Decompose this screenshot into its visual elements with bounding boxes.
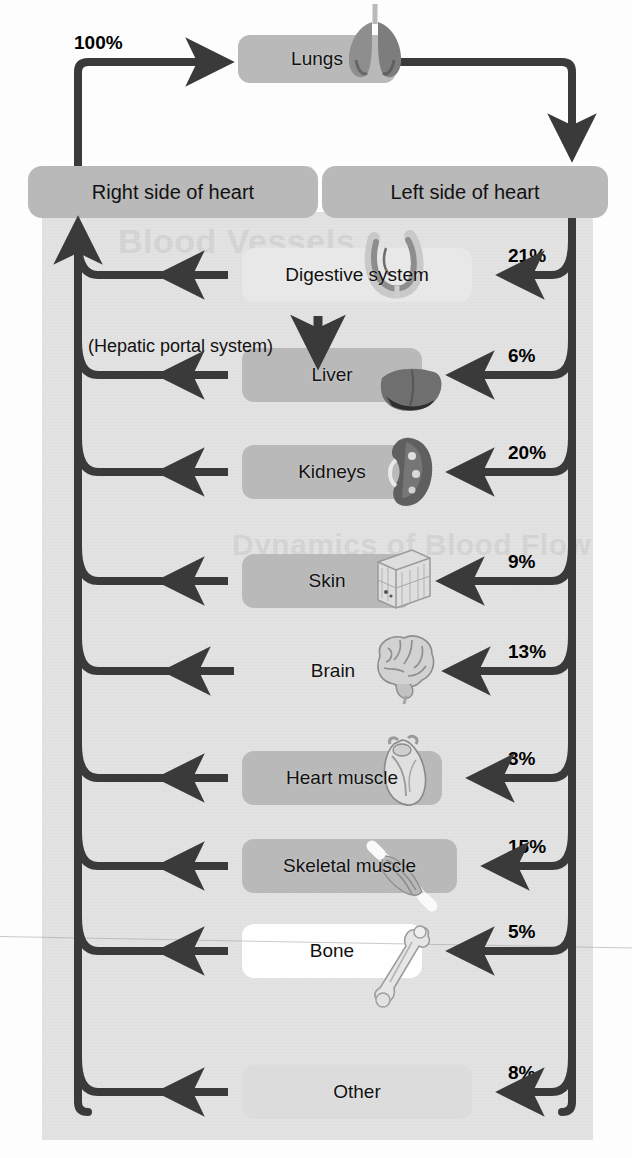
bone-icon: [372, 920, 434, 1016]
organ-label: Skin: [309, 570, 346, 592]
organ-label: Other: [333, 1081, 381, 1103]
percent-label-brain: 13%: [508, 641, 546, 663]
percent-label-heart-muscle: 3%: [508, 748, 535, 770]
organ-label: Bone: [310, 940, 354, 962]
node-left-heart[interactable]: Left side of heart: [322, 166, 608, 218]
organ-label: Liver: [311, 364, 352, 386]
liver-icon: [378, 364, 446, 420]
kidney-icon: [376, 434, 438, 512]
node-digestive-system[interactable]: Digestive system: [242, 248, 472, 302]
percent-label-kidneys: 20%: [508, 442, 546, 464]
brain-icon: [362, 630, 440, 706]
percent-label-skin: 9%: [508, 551, 535, 573]
percent-label-liver: 6%: [508, 345, 535, 367]
node-lungs-label: Lungs: [291, 48, 343, 70]
percent-label-skeletal-muscle: 15%: [508, 836, 546, 858]
hepatic-portal-note: (Hepatic portal system): [88, 336, 273, 357]
organ-label: Skeletal muscle: [283, 855, 416, 877]
percent-label-digestive-system: 21%: [508, 245, 546, 267]
organ-label: Heart muscle: [286, 767, 398, 789]
node-left-heart-label: Left side of heart: [391, 181, 540, 204]
lungs-icon: [336, 2, 414, 84]
organ-label: Kidneys: [298, 461, 366, 483]
diagram-canvas: Dynamics of Blood Flow Blood Vessels Blo…: [0, 0, 632, 1158]
skin-icon: [372, 546, 436, 612]
percent-label-bone: 5%: [508, 921, 535, 943]
intestine-icon: [364, 226, 430, 300]
node-right-heart[interactable]: Right side of heart: [28, 166, 318, 218]
organ-label: Brain: [311, 660, 355, 682]
organ-label: Digestive system: [285, 264, 429, 286]
percent-label-other: 8%: [508, 1062, 535, 1084]
node-other[interactable]: Other: [242, 1065, 472, 1119]
node-right-heart-label: Right side of heart: [92, 181, 254, 204]
pulmonary-percent-label: 100%: [74, 32, 123, 54]
